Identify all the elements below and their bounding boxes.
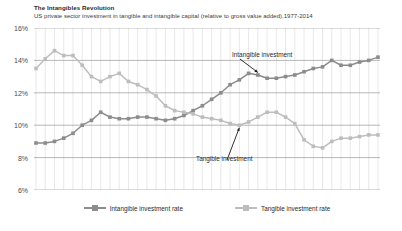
series-marker (339, 136, 343, 140)
chart-legend: Intangible investment rate Tangible inve… (34, 198, 380, 218)
plot-area (34, 28, 380, 190)
chart-figure: The Intangibles Revolution US private se… (0, 0, 402, 231)
series-marker (182, 114, 186, 118)
series-marker (284, 115, 288, 119)
series-marker (201, 115, 205, 119)
series-marker (275, 76, 279, 80)
series-marker (330, 59, 334, 63)
series-marker (321, 65, 325, 69)
series-marker (136, 83, 140, 87)
series-marker (145, 115, 149, 119)
series-marker (108, 75, 112, 79)
chart-svg (34, 28, 380, 190)
series-marker (302, 138, 306, 142)
series-marker (182, 110, 186, 114)
series-marker (34, 141, 38, 145)
y-axis-tick: 14% (2, 57, 28, 64)
legend-label-tangible: Tangible investment rate (261, 205, 330, 212)
series-marker (238, 78, 242, 82)
series-marker (247, 72, 251, 76)
series-marker (99, 80, 103, 84)
series-marker (228, 122, 232, 126)
y-axis-tick: 8% (2, 154, 28, 161)
series-marker (99, 110, 103, 114)
series-marker (275, 110, 279, 114)
series-marker (293, 73, 297, 77)
series-marker (339, 63, 343, 67)
series-marker (53, 140, 57, 144)
series-marker (210, 97, 214, 101)
annotation-tangible: Tangible investment (196, 155, 252, 162)
series-marker (293, 122, 297, 126)
chart-subtitle: US private sector investment in tangible… (34, 13, 313, 19)
series-marker (284, 75, 288, 79)
series-marker (90, 119, 94, 123)
series-marker (311, 67, 315, 71)
y-axis-labels: 16%14%12%10%8%6% (0, 0, 34, 231)
series-marker (330, 140, 334, 144)
legend-item-tangible[interactable]: Tangible investment rate (235, 204, 330, 212)
annotation-arrow-intangible (240, 59, 258, 72)
legend-swatch-tangible-icon (235, 204, 257, 212)
legend-swatch-intangible-icon (84, 204, 106, 212)
series-marker (43, 141, 47, 145)
series-marker (43, 57, 47, 61)
series-marker (53, 49, 57, 53)
series-marker (238, 123, 242, 127)
series-marker (136, 115, 140, 119)
y-axis-tick: 10% (2, 122, 28, 129)
series-marker (247, 120, 251, 124)
series-line (36, 57, 378, 143)
series-marker (173, 109, 177, 113)
series-marker (71, 132, 75, 136)
series-marker (80, 123, 84, 127)
series-marker (117, 117, 121, 121)
series-marker (358, 60, 362, 64)
series-marker (173, 117, 177, 121)
series-marker (358, 135, 362, 139)
annotation-arrow-tangible-head (237, 128, 240, 132)
series-marker (256, 73, 260, 77)
legend-label-intangible: Intangible investment rate (110, 205, 183, 212)
y-axis-tick: 12% (2, 89, 28, 96)
chart-title: The Intangibles Revolution (34, 4, 114, 11)
series-marker (228, 83, 232, 87)
series-marker (201, 104, 205, 108)
series-marker (154, 94, 158, 98)
series-marker (376, 133, 380, 137)
series-marker (164, 119, 168, 123)
series-marker (210, 117, 214, 121)
series-marker (127, 80, 131, 84)
series-marker (348, 63, 352, 67)
series-marker (154, 117, 158, 121)
series-marker (367, 59, 371, 63)
series-marker (62, 136, 66, 140)
annotation-intangible: Intangible investment (232, 51, 292, 58)
series-marker (117, 72, 121, 76)
series-marker (219, 119, 223, 123)
series-marker (191, 112, 195, 116)
series-marker (367, 133, 371, 137)
series-marker (71, 54, 75, 58)
series-marker (265, 110, 269, 114)
series-marker (90, 75, 94, 79)
series-marker (321, 146, 325, 150)
series-marker (219, 91, 223, 95)
series-marker (265, 76, 269, 80)
series-marker (164, 104, 168, 108)
series-line (36, 51, 378, 148)
series-marker (80, 63, 84, 67)
series-marker (62, 54, 66, 58)
series-marker (302, 70, 306, 74)
series-marker (348, 136, 352, 140)
series-marker (145, 88, 149, 92)
series-marker (256, 115, 260, 119)
y-axis-tick: 6% (2, 187, 28, 194)
series-marker (34, 67, 38, 71)
series-marker (376, 55, 380, 59)
series-marker (108, 115, 112, 119)
series-marker (127, 117, 131, 121)
legend-item-intangible[interactable]: Intangible investment rate (84, 204, 183, 212)
series-marker (191, 109, 195, 113)
y-axis-tick: 16% (2, 25, 28, 32)
